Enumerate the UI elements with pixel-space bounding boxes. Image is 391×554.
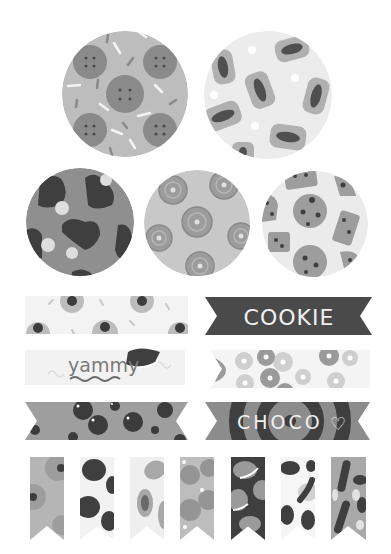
sticker-sheet: COOKIE yammy xyxy=(0,0,391,554)
choco-banner-label: CHOCO xyxy=(237,411,323,433)
flag-3-sticker[interactable] xyxy=(130,457,170,540)
flag-7-sticker[interactable] xyxy=(331,457,367,540)
heart-icon: ♡ xyxy=(330,413,346,434)
biscuit-circle-sticker[interactable] xyxy=(62,31,188,157)
cookie-banner-sticker[interactable]: COOKIE xyxy=(205,297,372,335)
yammy-tape-sticker[interactable]: yammy xyxy=(25,349,185,386)
swirl-cookie-circle-sticker[interactable] xyxy=(144,170,254,280)
chip-cookie-circle-sticker[interactable] xyxy=(262,170,368,279)
flag-1-sticker[interactable] xyxy=(20,455,72,540)
flag-4-sticker[interactable] xyxy=(179,457,218,540)
flag-6-sticker[interactable] xyxy=(280,457,318,540)
jellybean-circle-sticker[interactable] xyxy=(202,31,332,162)
flag-5-sticker[interactable] xyxy=(228,457,271,540)
yammy-label: yammy xyxy=(68,354,139,376)
cookie-banner-label: COOKIE xyxy=(244,305,335,330)
choc-heart-circle-sticker[interactable] xyxy=(26,168,134,285)
choc-ball-banner-sticker[interactable] xyxy=(25,400,188,446)
flag-2-sticker[interactable] xyxy=(76,457,118,540)
donut-tape-sticker[interactable] xyxy=(210,346,370,401)
candy-drop-tape-sticker[interactable] xyxy=(25,289,192,346)
